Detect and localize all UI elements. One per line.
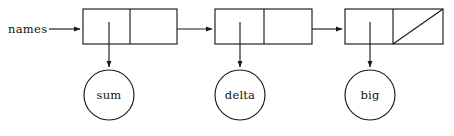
diagram-canvas: names sum delta big	[0, 0, 454, 136]
node-label-big: big	[360, 88, 379, 102]
cell-3-box	[345, 9, 443, 44]
node-label-delta: delta	[225, 88, 255, 102]
head-variable-label: names	[8, 22, 47, 36]
node-label-sum: sum	[97, 88, 122, 102]
linked-list-diagram: names sum delta big	[0, 0, 454, 136]
